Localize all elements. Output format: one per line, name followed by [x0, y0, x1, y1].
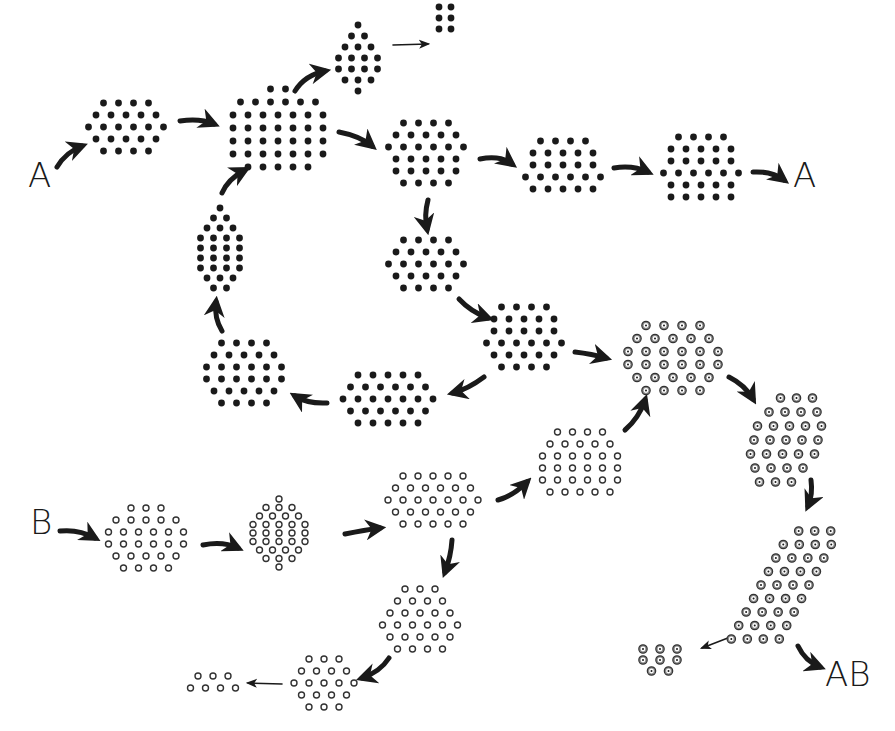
- solid-dot: [260, 138, 267, 145]
- arrow-A-a1: [57, 146, 82, 167]
- solid-dot: [445, 261, 452, 268]
- ring-dot: [257, 547, 263, 553]
- solid-dot: [430, 285, 437, 292]
- solid-dot: [460, 261, 467, 268]
- clusters-layer: [85, 4, 835, 710]
- solid-dot: [720, 134, 727, 141]
- arrow-a8-a9: [453, 377, 484, 393]
- solid-dot: [342, 44, 349, 51]
- solid-dot: [145, 124, 152, 131]
- ring-dot: [395, 646, 401, 652]
- ring-dot: [432, 586, 438, 592]
- solid-dot: [430, 237, 437, 244]
- arrow-ab1-ab2: [729, 377, 753, 399]
- solid-dot: [263, 376, 270, 383]
- solid-dot: [590, 150, 597, 157]
- arrow-B-b1: [60, 531, 95, 538]
- ring-dot: [600, 429, 606, 435]
- solid-dot: [436, 15, 443, 22]
- solid-dot: [275, 164, 282, 171]
- ring-dot: [415, 473, 421, 479]
- solid-dot: [445, 285, 452, 292]
- ring-dot: [263, 530, 269, 536]
- solid-dot: [575, 162, 582, 169]
- solid-dot: [415, 261, 422, 268]
- ring-dot: [302, 530, 308, 536]
- solid-dot: [522, 174, 529, 181]
- solid-dot: [218, 400, 225, 407]
- solid-dot: [278, 376, 285, 383]
- solid-dot: [320, 125, 327, 132]
- solid-dot: [217, 225, 224, 232]
- solid-dot: [543, 364, 550, 371]
- ring-dot: [218, 685, 224, 691]
- solid-dot: [422, 408, 429, 415]
- solid-dot: [385, 420, 392, 427]
- solid-dot: [575, 186, 582, 193]
- cluster-ab1: [624, 321, 722, 394]
- solid-dot: [282, 86, 289, 93]
- solid-dot: [260, 112, 267, 119]
- ring-dot: [336, 704, 342, 710]
- solid-dot: [436, 4, 443, 11]
- solid-dot: [275, 138, 282, 145]
- solid-dot: [355, 88, 362, 95]
- ring-dot: [585, 429, 591, 435]
- ring-dot: [577, 441, 583, 447]
- solid-dot: [217, 275, 224, 282]
- ring-dot: [329, 692, 335, 698]
- ring-dot: [600, 453, 606, 459]
- solid-dot: [543, 340, 550, 347]
- solid-dot: [430, 396, 437, 403]
- label-ab-end: AB: [825, 657, 871, 691]
- ring-dot: [540, 465, 546, 471]
- ring-dot: [289, 556, 295, 562]
- solid-dot: [422, 384, 429, 391]
- solid-dot: [320, 112, 327, 119]
- ring-dot: [393, 509, 399, 515]
- solid-dot: [408, 168, 415, 175]
- ring-dot: [438, 509, 444, 515]
- solid-dot: [108, 136, 115, 143]
- ring-dot: [128, 505, 134, 511]
- solid-dot: [668, 146, 675, 153]
- ring-dot: [128, 517, 134, 523]
- solid-dot: [275, 125, 282, 132]
- ring-dot: [387, 634, 393, 640]
- solid-dot: [400, 285, 407, 292]
- solid-dot: [217, 205, 224, 212]
- solid-dot: [355, 77, 362, 84]
- solid-dot: [362, 408, 369, 415]
- solid-dot: [675, 134, 682, 141]
- solid-dot: [211, 352, 218, 359]
- ring-dot: [336, 656, 342, 662]
- ring-dot: [128, 553, 134, 559]
- solid-dot: [415, 120, 422, 127]
- ring-dot: [225, 673, 231, 679]
- solid-dot: [438, 132, 445, 139]
- solid-dot: [370, 372, 377, 379]
- solid-dot: [377, 384, 384, 391]
- solid-dot: [537, 138, 544, 145]
- solid-dot: [407, 408, 414, 415]
- solid-dot: [197, 255, 204, 262]
- solid-dot: [521, 352, 528, 359]
- ring-dot: [166, 541, 172, 547]
- solid-dot: [233, 376, 240, 383]
- ring-dot: [555, 429, 561, 435]
- solid-dot: [210, 265, 217, 272]
- solid-dot: [275, 151, 282, 158]
- solid-dot: [705, 170, 712, 177]
- ring-dot: [453, 509, 459, 515]
- solid-dot: [453, 132, 460, 139]
- ring-dot: [423, 509, 429, 515]
- ring-dot: [600, 477, 606, 483]
- ring-dot: [158, 553, 164, 559]
- solid-dot: [263, 340, 270, 347]
- solid-dot: [400, 372, 407, 379]
- solid-dot: [223, 245, 230, 252]
- arrow-a4-a5: [480, 158, 512, 164]
- solid-dot: [260, 151, 267, 158]
- solid-dot: [245, 151, 252, 158]
- solid-dot: [392, 384, 399, 391]
